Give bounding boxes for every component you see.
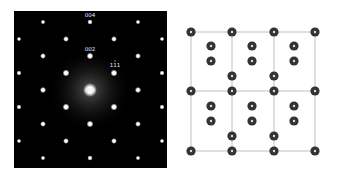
atom: [310, 146, 319, 155]
atom-center: [293, 45, 295, 47]
atom: [310, 27, 319, 36]
atom: [247, 56, 256, 65]
atom: [269, 71, 278, 80]
diffraction-spot: [63, 36, 69, 42]
atom-center: [273, 150, 275, 152]
atom: [247, 101, 256, 110]
atom-center: [190, 150, 192, 152]
atom-center: [190, 90, 192, 92]
diffraction-spot: [135, 87, 141, 93]
atom: [269, 146, 278, 155]
diffraction-spot: [111, 36, 117, 42]
diffraction-spot: [87, 155, 92, 160]
atom: [269, 86, 278, 95]
atom-center: [190, 31, 192, 33]
atom: [206, 41, 215, 50]
diffraction-spot: [17, 139, 21, 143]
atom: [289, 101, 298, 110]
atom-center: [314, 90, 316, 92]
spot-label: 111: [110, 62, 121, 68]
figure: 004002111000: [0, 0, 337, 179]
atom-center: [210, 60, 212, 62]
atom-center: [273, 75, 275, 77]
atom: [206, 116, 215, 125]
atom-center: [251, 45, 253, 47]
diffraction-spot: [160, 37, 164, 41]
atom-center: [293, 105, 295, 107]
diffraction-spot: [87, 19, 92, 24]
atom-center: [210, 120, 212, 122]
diffraction-spot: [62, 103, 69, 110]
diffraction-spot: [87, 53, 94, 60]
spot-label: 002: [85, 46, 96, 52]
diffraction-spot: [160, 139, 164, 143]
diffraction-spot: [136, 156, 141, 161]
atom: [186, 146, 195, 155]
atom-center: [273, 135, 275, 137]
atom-center: [314, 150, 316, 152]
diffraction-spot: [159, 70, 164, 75]
atom: [227, 131, 236, 140]
atom-center: [314, 31, 316, 33]
atom: [227, 71, 236, 80]
atom-center: [231, 75, 233, 77]
atom: [247, 41, 256, 50]
atom-center: [293, 60, 295, 62]
diffraction-spot: [111, 138, 117, 144]
diffraction-spot: [159, 104, 164, 109]
diffraction-spot: [40, 53, 46, 59]
atom: [247, 116, 256, 125]
lattice-panel: [186, 27, 319, 155]
atom-center: [231, 135, 233, 137]
atom-center: [210, 105, 212, 107]
diffraction-spot: [135, 53, 141, 59]
spot-label: 000: [85, 87, 96, 93]
diffraction-spot: [136, 20, 141, 25]
atom: [289, 56, 298, 65]
diffraction-spot: [16, 70, 21, 75]
diffraction-spot: [63, 138, 69, 144]
spot-label: 004: [85, 12, 96, 18]
atom: [227, 27, 236, 36]
atom: [289, 41, 298, 50]
atom-center: [251, 120, 253, 122]
diffraction-spot: [87, 121, 94, 128]
diffraction-spot: [17, 37, 21, 41]
diffraction-spot: [62, 69, 69, 76]
atom-center: [273, 31, 275, 33]
atom-center: [210, 45, 212, 47]
diffraction-spot: [41, 20, 46, 25]
diffraction-spot: [16, 104, 21, 109]
diffraction-spot: [41, 156, 46, 161]
atom-center: [273, 90, 275, 92]
atom-center: [293, 120, 295, 122]
atom: [227, 86, 236, 95]
diffraction-spot: [110, 103, 117, 110]
atom: [206, 56, 215, 65]
atom-center: [231, 31, 233, 33]
atom: [206, 101, 215, 110]
diffraction-pattern-panel: 004002111000: [14, 11, 167, 168]
diffraction-spot: [135, 121, 141, 127]
diffraction-spot: [40, 87, 46, 93]
atom-center: [231, 90, 233, 92]
atom: [269, 27, 278, 36]
diffraction-spot: [40, 121, 46, 127]
atom: [269, 131, 278, 140]
atom: [310, 86, 319, 95]
atom-center: [231, 150, 233, 152]
atom: [227, 146, 236, 155]
atom: [186, 86, 195, 95]
diffraction-spot: [110, 69, 117, 76]
atom-center: [251, 105, 253, 107]
atom: [289, 116, 298, 125]
atom-center: [251, 60, 253, 62]
atom: [186, 27, 195, 36]
